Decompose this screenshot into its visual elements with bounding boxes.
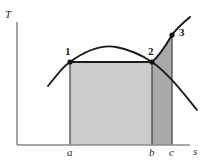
state-label-3: 3: [179, 27, 185, 38]
ts-diagram-figure: T s a b c 1 2 3: [0, 0, 212, 164]
x-tick-label-b: b: [149, 147, 155, 158]
x-tick-label-c: c: [169, 147, 174, 158]
state-point-2: [149, 59, 154, 64]
state-label-2: 2: [148, 46, 154, 57]
state-point-1: [67, 59, 72, 64]
state-label-1: 1: [65, 46, 71, 57]
state-point-3: [169, 32, 174, 37]
x-axis-label: s: [193, 146, 197, 157]
chart-canvas: [0, 0, 212, 164]
area-under-1-2: [70, 62, 152, 145]
x-tick-label-a: a: [67, 147, 73, 158]
y-axis-label: T: [5, 9, 11, 20]
